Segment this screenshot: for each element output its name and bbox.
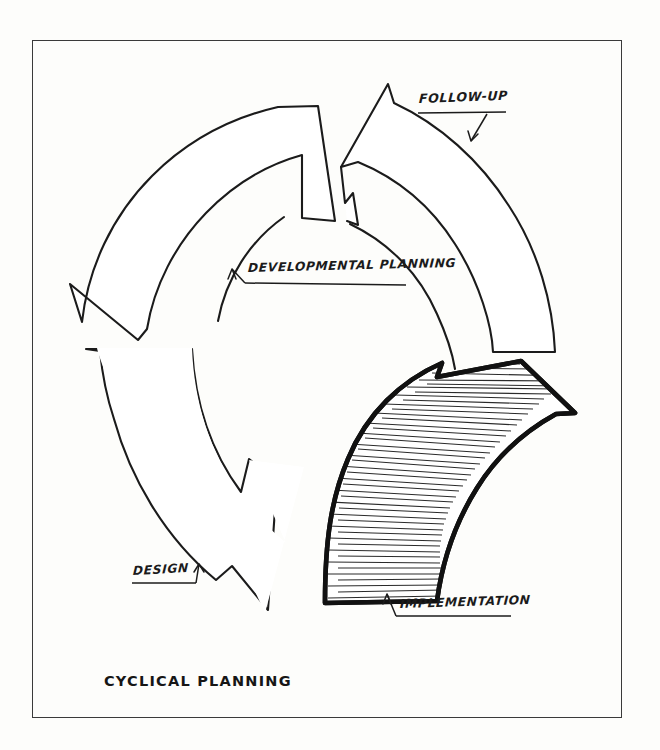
inner-ring-boundary: [218, 217, 455, 369]
arrow-implementation: [325, 361, 575, 610]
cyclical-planning-diagram: [0, 0, 660, 750]
scanned-page: FOLLOW-UP DEVELOPMENTAL PLANNING DESIGN …: [0, 0, 660, 750]
arrow-developmental-planning: [70, 106, 335, 340]
arrow-follow-up: [341, 84, 555, 352]
diagram-title: CYCLICAL PLANNING: [104, 673, 292, 689]
arrow-design-outline: [85, 348, 304, 613]
label-design: DESIGN: [133, 562, 189, 577]
